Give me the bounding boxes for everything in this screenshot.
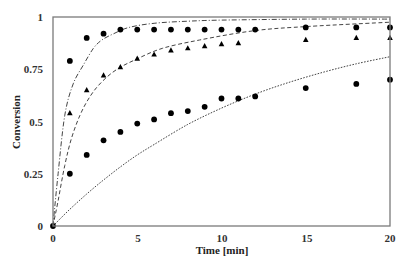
circle-marker [353,81,359,87]
circle-marker [84,152,90,158]
circle-marker [134,121,140,127]
circle-marker [219,27,225,33]
model-curve-dashdot [53,19,390,226]
x-tick-label: 10 [217,232,229,244]
circle-marker [151,117,157,123]
triangle-marker [185,45,191,50]
y-tick-label: 0.75 [24,63,44,75]
circle-marker [185,27,191,33]
triangle-marker [151,51,157,56]
circle-marker [252,94,258,100]
x-tick-label: 0 [50,232,56,244]
circle-marker [235,27,241,33]
circle-marker [151,27,157,33]
triangle-marker [303,37,309,42]
y-axis-label: Conversion [10,95,22,149]
y-tick-label: 1 [38,11,44,23]
circle-marker [67,171,73,177]
triangle-marker [202,43,208,48]
triangle-marker [101,72,107,77]
circle-marker [353,25,359,31]
triangle-marker [118,64,124,69]
y-tick-label: 0.25 [24,168,44,180]
circle-marker [134,27,140,33]
model-curves [53,19,390,226]
x-axis-label: Time [min] [196,244,249,256]
x-tick-labels: 0 5 10 15 20 [50,232,396,244]
circle-marker [185,108,191,114]
triangle-marker [219,41,225,46]
circle-marker [202,27,208,33]
circle-marker [303,85,309,91]
circle-marker [101,137,107,143]
triangle-marker [236,40,242,45]
x-tick-label: 15 [302,232,314,244]
y-tick-label: 0 [38,220,44,232]
circle-marker [118,129,124,135]
plot-frame [53,17,390,226]
triangle-marker [168,47,174,52]
circle-marker [235,96,241,102]
x-tick-label: 20 [385,232,397,244]
circle-marker [118,27,124,33]
y-tick-labels: 1 0.75 0.5 0.25 0 [24,11,44,232]
circle-marker [252,27,258,33]
triangle-marker [67,110,73,115]
model-curve-dashed [53,22,390,226]
circle-marker [168,110,174,116]
circle-marker [84,35,90,41]
circle-marker [303,25,309,31]
x-tick-label: 5 [135,232,141,244]
data-markers [50,25,393,229]
circle-marker [101,31,107,37]
circle-marker [67,58,73,64]
triangle-marker [354,35,360,40]
circle-marker [202,104,208,110]
circle-marker [219,96,225,102]
circle-marker [168,27,174,33]
y-tick-label: 0.5 [29,116,43,128]
conversion-chart: 1 0.75 0.5 0.25 0 0 5 10 15 20 Time [min… [0,0,409,267]
triangle-marker [84,87,90,92]
